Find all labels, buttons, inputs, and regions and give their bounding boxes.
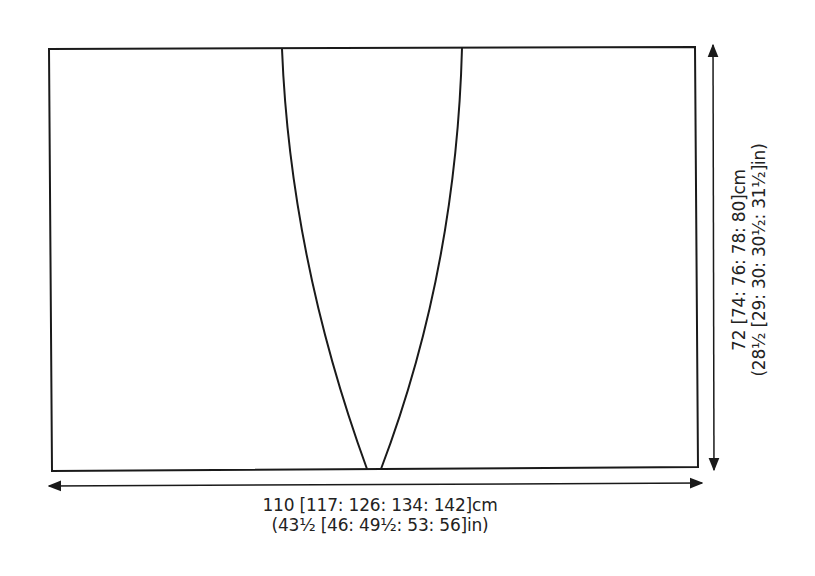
garment-outline [49,47,698,471]
height-in-text: (28½ [29: 30: 30½: 31½]in) [749,50,769,470]
width-in-text: (43½ [46: 49½: 53: 56]in) [0,515,760,535]
height-measurement-label: 72 [74: 76: 78: 80]cm (28½ [29: 30: 30½:… [729,50,769,470]
height-cm-text: 72 [74: 76: 78: 80]cm [729,50,749,470]
left-front-edge-curve [282,49,367,469]
width-dimension-arrow [49,483,702,486]
height-dimension-arrow [713,45,714,470]
width-measurement-label: 110 [117: 126: 134: 142]cm (43½ [46: 49½… [0,495,760,535]
width-cm-text: 110 [117: 126: 134: 142]cm [0,495,760,515]
garment-schematic [0,0,815,576]
right-front-edge-curve [381,48,462,469]
